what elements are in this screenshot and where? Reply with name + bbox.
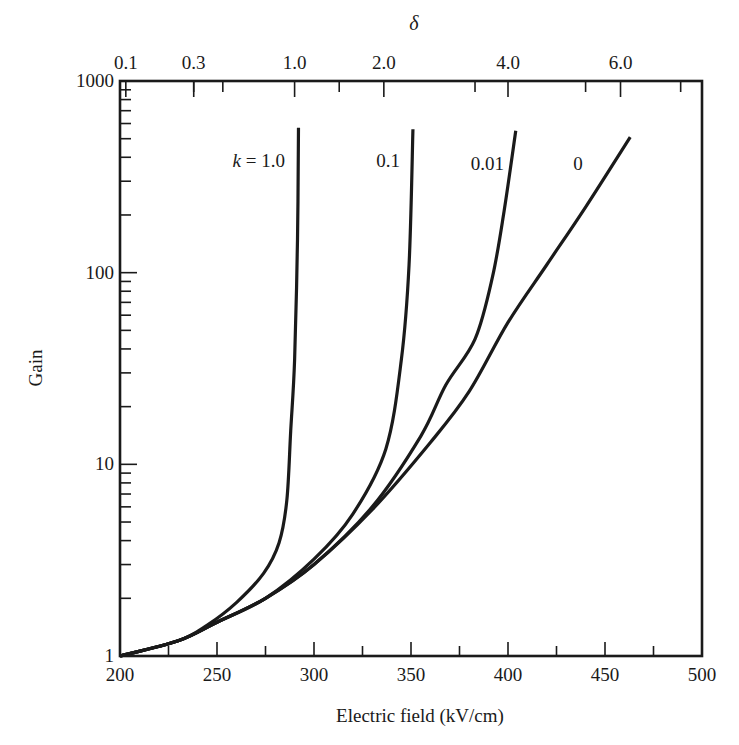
x-tick-label: 300 [300,664,329,685]
curve-label: 0.01 [471,153,504,174]
curve-k-0-01 [120,131,516,656]
curve-k-0 [120,137,630,656]
y-tick-label: 10 [95,453,114,474]
curve-label: 0 [573,153,583,174]
x-tick-label: 200 [106,664,135,685]
curves-layer [120,128,630,656]
y-tick-label: 1000 [76,70,114,91]
x-tick-label: 250 [203,664,232,685]
y-tick-label: 100 [86,262,115,283]
x-tick-label: 450 [591,664,620,685]
top-tick-label: 0.3 [182,52,206,73]
top-tick-label: 1.0 [283,52,307,73]
curve-label: 0.1 [376,150,400,171]
top-axis-title: δ [409,12,419,34]
curve-k-0-1 [120,129,413,656]
x-tick-label: 350 [397,664,426,685]
x-tick-label: 500 [688,664,717,685]
top-tick-label: 6.0 [609,52,633,73]
top-tick-label: 2.0 [372,52,396,73]
y-axis-title: Gain [25,349,46,386]
gain-vs-field-chart: 20025030035040045050011010010000.10.31.0… [0,0,739,745]
curve-label: k = 1.0 [233,150,285,171]
top-tick-label: 4.0 [496,52,520,73]
curve-k-1-0 [120,128,298,656]
x-tick-label: 400 [494,664,523,685]
y-tick-label: 1 [105,645,115,666]
top-tick-label: 0.1 [114,52,138,73]
x-axis-title: Electric field (kV/cm) [336,705,504,727]
labels-layer: 20025030035040045050011010010000.10.31.0… [76,52,716,685]
